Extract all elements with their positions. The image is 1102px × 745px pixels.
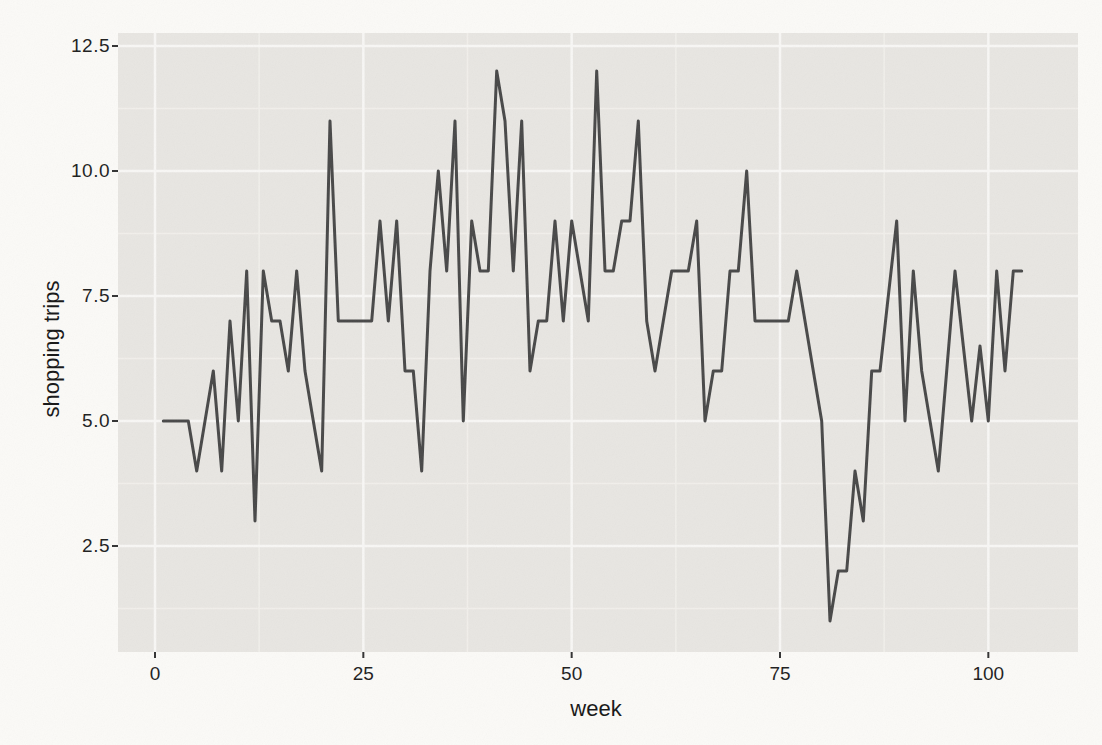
- y-axis-tick-label: 12.5: [50, 35, 110, 57]
- y-axis-tick-label: 2.5: [50, 535, 110, 557]
- x-axis-tick-label: 100: [958, 663, 1018, 685]
- x-axis-tick-label: 25: [333, 663, 393, 685]
- y-axis-title: shopping trips: [39, 199, 65, 499]
- x-axis-tick-label: 75: [750, 663, 810, 685]
- x-axis-tick-label: 50: [542, 663, 602, 685]
- line-chart: [0, 0, 1102, 745]
- x-axis-title: week: [446, 696, 746, 722]
- x-axis-tick-label: 0: [125, 663, 185, 685]
- scanned-figure-page: 2.55.07.510.012.50255075100 week shoppin…: [0, 0, 1102, 745]
- y-axis-tick-label: 10.0: [50, 160, 110, 182]
